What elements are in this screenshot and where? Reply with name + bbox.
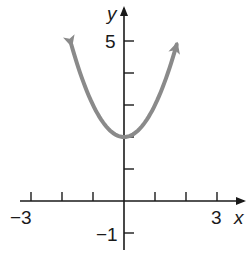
x-axis-label: x	[234, 208, 244, 227]
x-tick-label-neg3: −3	[10, 208, 32, 227]
x-tick-label-3: 3	[211, 208, 222, 227]
y-tick-label-neg1: −1	[96, 225, 118, 244]
y-tick-label-5: 5	[105, 32, 116, 51]
y-axis-label: y	[107, 4, 117, 23]
